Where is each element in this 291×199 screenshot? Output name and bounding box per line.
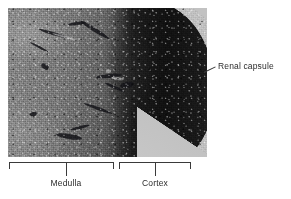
medulla-label: Medulla — [51, 178, 82, 188]
cortex-bracket-tick-left — [119, 162, 120, 169]
medulla-bracket-drop-line — [66, 162, 67, 176]
medulla-bracket-span — [9, 162, 114, 163]
cortex-bracket-tick-right — [190, 162, 191, 169]
figure-root: Renal capsule Medulla Cortex — [0, 0, 291, 199]
tissue-highlight — [106, 69, 111, 73]
tissue-bottom-cut-edge — [137, 107, 207, 157]
renal-capsule-label: Renal capsule — [218, 61, 274, 71]
cortex-label: Cortex — [142, 178, 168, 188]
renal-section-micrograph — [8, 8, 207, 157]
medulla-bracket-tick-left — [9, 162, 10, 169]
tissue-top-cut-edge — [187, 8, 207, 24]
cortex-bracket-drop-line — [155, 162, 156, 176]
medulla-bracket-tick-right — [113, 162, 114, 169]
